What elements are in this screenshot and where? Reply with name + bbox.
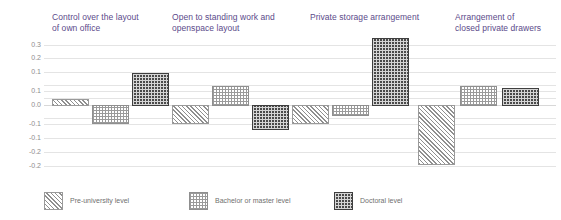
y-tick-label: 0.2 [1, 54, 41, 61]
bar-g2-doctoral [252, 105, 289, 130]
bar-g3-doctoral [372, 38, 409, 106]
chart-figure: Control over the layout of own office Op… [0, 0, 561, 220]
chart-legend: Pre-university level Bachelor or master … [44, 192, 544, 214]
bar-g1-bachelor-master [92, 105, 129, 124]
bar-g4-bachelor-master [460, 86, 497, 106]
y-tick-label: 0.1 [1, 87, 41, 94]
group-title-4: Arrangement of closed private drawers [455, 12, 560, 34]
legend-swatch-icon [44, 192, 63, 210]
y-tick-label: 0.3 [1, 41, 41, 48]
plot-area [44, 44, 556, 167]
gridline [44, 58, 556, 59]
gridline [44, 152, 556, 153]
y-tick-label: -0.1 [1, 120, 41, 127]
gridline [44, 45, 556, 46]
legend-label: Bachelor or master level [215, 197, 290, 204]
y-tick-label: -0.2 [1, 162, 41, 169]
y-tick-label: 0.0 [1, 101, 41, 108]
gridline [44, 124, 556, 125]
bar-g1-doctoral [132, 73, 169, 106]
legend-label: Pre-university level [70, 197, 129, 204]
gridline [44, 166, 556, 167]
bar-g1-pre-university [52, 99, 89, 106]
bar-g2-bachelor-master [212, 86, 249, 106]
gridline [44, 138, 556, 139]
y-tick-label: -0.2 [1, 148, 41, 155]
group-title-1: Control over the layout of own office [52, 12, 177, 34]
bar-g3-bachelor-master [332, 105, 369, 116]
legend-swatch-icon [189, 192, 208, 210]
bar-g2-pre-university [172, 105, 209, 124]
y-tick-label: -0.1 [1, 134, 41, 141]
y-tick-label: 0.1 [1, 68, 41, 75]
bar-g4-pre-university [418, 105, 455, 165]
group-title-3: Private storage arrangement [310, 12, 450, 23]
y-axis: 0.3 0.2 0.1 0.1 0.0 -0.1 -0.1 -0.2 -0.2 [0, 44, 41, 167]
bar-g4-doctoral [502, 88, 539, 106]
group-title-2: Open to standing work and openspace layo… [172, 12, 307, 34]
legend-label: Doctoral level [360, 197, 402, 204]
gridline [44, 72, 556, 73]
legend-swatch-icon [334, 192, 353, 210]
bar-g3-pre-university [292, 105, 329, 124]
